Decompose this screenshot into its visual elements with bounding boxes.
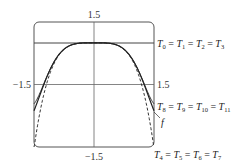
t8-label: T8 = T9 = T10 = T11: [157, 101, 230, 113]
f-pointer: [154, 112, 160, 118]
bottom-tick-label: −1.5: [85, 151, 103, 162]
left-tick-label: −1.5: [13, 79, 31, 90]
right-tick-label: 1.5: [157, 79, 170, 90]
t4-label: T4 = T5 = T6 = T7: [154, 149, 222, 161]
f-label: f: [161, 117, 165, 128]
taylor-polynomial-chart: 1.5 −1.5 −1.5 1.5 T0 = T1 = T2 = T3 T8 =…: [0, 0, 239, 166]
t0-label: T0 = T1 = T2 = T3: [157, 38, 224, 50]
top-tick-label: 1.5: [88, 9, 101, 20]
